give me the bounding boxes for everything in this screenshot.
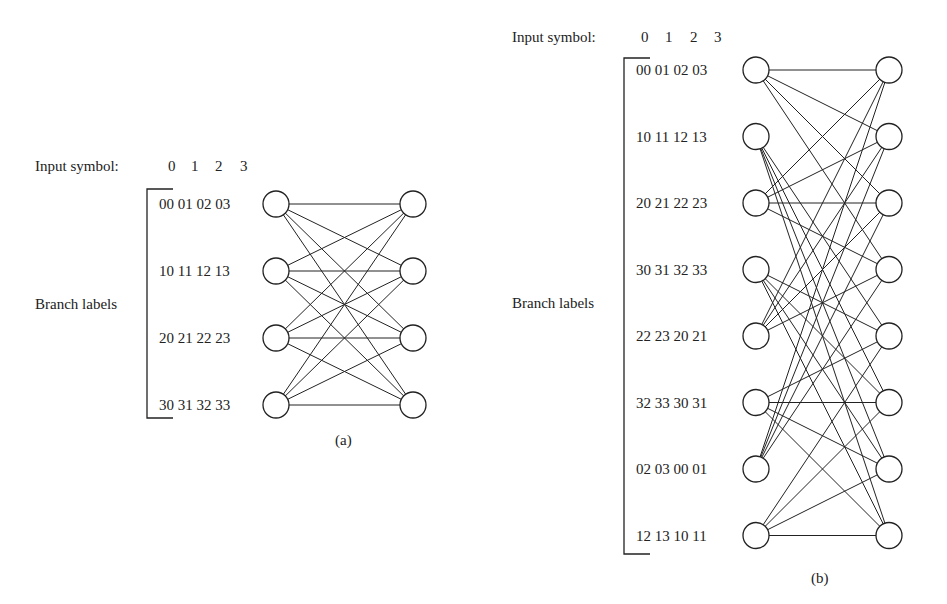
- input-symbol-1-a: 1: [191, 158, 199, 174]
- state-node-left: [263, 325, 289, 351]
- branch-label-row: 10 11 12 13: [636, 129, 707, 145]
- branch-label-row: 30 31 32 33: [636, 262, 707, 278]
- branch-label-row: 20 21 22 23: [159, 330, 230, 346]
- state-node-right: [876, 190, 902, 216]
- state-node-left: [263, 191, 289, 217]
- input-symbol-1-b: 1: [665, 29, 673, 45]
- state-node-right: [876, 456, 902, 482]
- state-node-right: [876, 57, 902, 83]
- state-node-left: [743, 456, 769, 482]
- input-symbol-2-a: 2: [215, 158, 223, 174]
- state-node-left: [743, 190, 769, 216]
- caption-a: (a): [335, 432, 352, 449]
- state-node-left: [743, 523, 769, 549]
- state-node-left: [743, 124, 769, 150]
- trellis-branch: [756, 203, 889, 469]
- branch-label-row: 02 03 00 01: [636, 461, 707, 477]
- trellis-branch: [756, 70, 889, 469]
- branch-labels-title-a: Branch labels: [35, 296, 117, 312]
- state-node-left: [743, 323, 769, 349]
- input-symbol-2-b: 2: [690, 29, 698, 45]
- input-symbol-0-b: 0: [641, 29, 649, 45]
- state-node-right: [400, 191, 426, 217]
- bracket-a: [147, 189, 173, 418]
- branch-label-row: 00 01 02 03: [636, 62, 707, 78]
- branch-label-row: 20 21 22 23: [636, 195, 707, 211]
- state-node-right: [400, 392, 426, 418]
- trellis-figure: Input symbol: 0 1 2 3 Branch labels 00 0…: [0, 0, 947, 604]
- trellis-diagram-a: Input symbol: 0 1 2 3 Branch labels 00 0…: [35, 158, 426, 449]
- state-node-left: [743, 390, 769, 416]
- state-node-left: [743, 57, 769, 83]
- trellis-branch: [756, 137, 889, 204]
- branch-label-row: 32 33 30 31: [636, 395, 707, 411]
- state-node-right: [400, 325, 426, 351]
- branch-label-row: 30 31 32 33: [159, 397, 230, 413]
- trellis-branch: [756, 336, 889, 536]
- branch-label-row: 12 13 10 11: [636, 528, 707, 544]
- state-node-right: [400, 258, 426, 284]
- state-node-right: [876, 523, 902, 549]
- state-node-left: [263, 392, 289, 418]
- state-node-left: [743, 257, 769, 283]
- branch-label-row: 10 11 12 13: [159, 263, 230, 279]
- trellis-branch: [756, 70, 889, 137]
- state-node-right: [876, 124, 902, 150]
- input-symbol-label-b: Input symbol:: [512, 29, 596, 45]
- input-symbol-3-b: 3: [714, 29, 722, 45]
- trellis-branch: [756, 469, 889, 536]
- state-node-left: [263, 258, 289, 284]
- input-symbol-0-a: 0: [168, 158, 176, 174]
- branch-label-row: 22 23 20 21: [636, 328, 707, 344]
- state-node-right: [876, 390, 902, 416]
- state-node-right: [876, 323, 902, 349]
- branch-labels-title-b: Branch labels: [512, 295, 594, 311]
- branch-label-row: 00 01 02 03: [159, 196, 230, 212]
- input-symbol-3-a: 3: [240, 158, 248, 174]
- state-node-right: [876, 257, 902, 283]
- input-symbol-label-a: Input symbol:: [35, 158, 119, 174]
- trellis-diagram-b: Input symbol: 0 1 2 3 Branch labels 00 0…: [512, 29, 902, 587]
- caption-b: (b): [811, 570, 829, 587]
